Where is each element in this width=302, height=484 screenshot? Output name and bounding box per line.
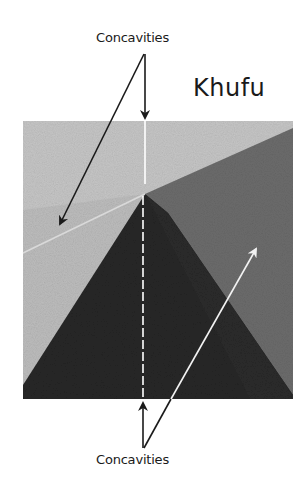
arrow-bottom-diagonal-dark [144, 399, 171, 448]
concavities-label-bottom: Concavities [96, 452, 169, 467]
pyramid-diagram [0, 0, 302, 484]
pyramid-photo [23, 121, 293, 399]
